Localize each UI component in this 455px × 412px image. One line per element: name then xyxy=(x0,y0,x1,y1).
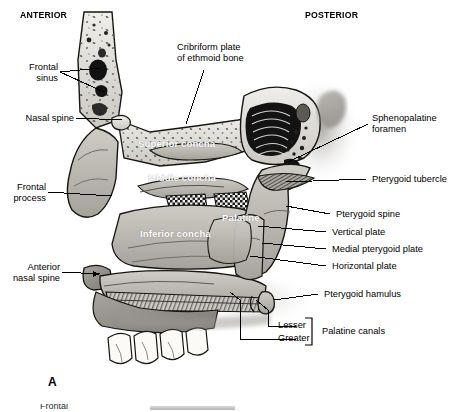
label-horizontal-plate: Horizontal plate xyxy=(332,261,397,272)
label-pterygoid-tubercle: Pterygoid tubercle xyxy=(372,174,447,185)
label-lesser: Lesser xyxy=(278,320,306,331)
label-palatine-canals: Palatine canals xyxy=(322,326,385,337)
label-middle-concha: Middle concha xyxy=(148,172,216,183)
label-anterior-nasal-spine: Anterior nasal spine xyxy=(0,262,60,283)
label-frontal-sinus: Frontal sinus xyxy=(0,62,58,83)
orientation-anterior: ANTERIOR xyxy=(20,9,67,20)
label-superior-concha: Superior concha xyxy=(138,138,215,149)
label-vertical-plate: Vertical plate xyxy=(332,227,385,238)
label-cribriform-plate: Cribriform plate of ethmoid bone xyxy=(177,42,244,63)
panel-label-a: A xyxy=(48,375,57,389)
orientation-posterior: POSTERIOR xyxy=(305,9,358,20)
label-greater: Greater xyxy=(278,333,310,344)
label-medial-pterygoid-plate: Medial pterygoid plate xyxy=(332,244,423,255)
label-sphenopalatine-foramen: Sphenopalatine foramen xyxy=(372,113,437,134)
label-pterygoid-hamulus: Pterygoid hamulus xyxy=(324,289,401,300)
label-nasal-spine: Nasal spine xyxy=(0,113,74,124)
label-frontal-process: Frontal process xyxy=(0,182,46,203)
clipped-next-figure-image xyxy=(150,406,235,410)
label-inferior-concha: Inferior concha xyxy=(140,228,211,239)
label-palatine: Palatine xyxy=(222,212,260,223)
figure-canvas: ANTERIOR POSTERIOR Frontal sinus Nasal s… xyxy=(0,0,455,412)
label-pterygoid-spine: Pterygoid spine xyxy=(336,209,400,220)
